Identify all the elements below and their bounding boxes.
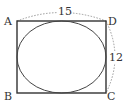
vertex-label-d: D	[108, 15, 117, 28]
inscribed-ellipse	[17, 21, 106, 93]
top-length-label: 15	[58, 5, 72, 18]
vertex-label-c: C	[107, 90, 115, 103]
right-length-label: 12	[109, 51, 123, 64]
vertex-label-a: A	[3, 15, 13, 28]
geometry-diagram: A B C D 15 12	[0, 0, 126, 107]
vertex-label-b: B	[4, 90, 12, 103]
